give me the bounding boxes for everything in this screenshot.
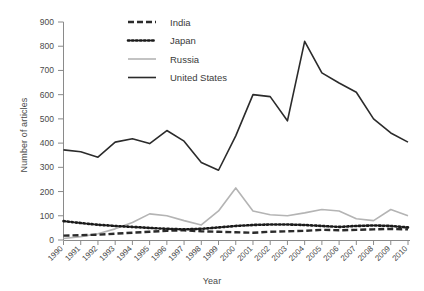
y-tick-label: 500	[40, 114, 54, 124]
y-tick-label: 700	[40, 65, 54, 75]
x-tick-label: 1992	[80, 244, 99, 263]
x-tick-label: 1999	[201, 244, 220, 263]
legend-label-india: India	[170, 17, 191, 28]
plot-area: 0100200300400500600700800900 19901991199…	[0, 0, 424, 291]
series-line-united-states	[64, 41, 409, 170]
y-tick-label: 200	[40, 187, 54, 197]
x-tick-label: 2000	[218, 244, 237, 263]
legend-label-russia: Russia	[170, 54, 200, 65]
x-tick-label: 2006	[322, 244, 341, 263]
series-line-india	[64, 229, 409, 236]
x-tick-label: 1995	[132, 244, 151, 263]
y-tick-label: 800	[40, 41, 54, 51]
line-chart: 0100200300400500600700800900 19901991199…	[0, 0, 424, 291]
x-tick-label: 1990	[46, 244, 65, 263]
x-tick-label: 1994	[115, 244, 134, 263]
y-tick-label: 900	[40, 17, 54, 27]
y-axis-ticks: 0100200300400500600700800900	[40, 17, 64, 245]
y-axis-title: Number of articles	[19, 65, 29, 205]
data-series-group	[64, 41, 409, 238]
x-tick-label: 1998	[184, 244, 203, 263]
chart-legend: IndiaJapanRussiaUnited States	[128, 17, 227, 84]
x-tick-label: 2001	[235, 244, 254, 263]
x-tick-label: 2002	[253, 244, 272, 263]
x-tick-label: 1991	[63, 244, 82, 263]
x-tick-label: 2003	[270, 244, 289, 263]
x-tick-label: 1997	[167, 244, 186, 263]
x-tick-label: 2009	[373, 244, 392, 263]
y-tick-label: 100	[40, 211, 54, 221]
x-axis-ticks: 1990199119921993199419951996199719981999…	[46, 241, 410, 263]
x-tick-label: 2007	[339, 244, 358, 263]
x-axis-title: Year	[0, 276, 424, 286]
x-tick-label: 1993	[98, 244, 117, 263]
x-tick-label: 2004	[287, 244, 306, 263]
legend-label-japan: Japan	[170, 35, 196, 46]
y-tick-label: 400	[40, 138, 54, 148]
legend-label-united-states: United States	[170, 72, 227, 83]
y-tick-label: 300	[40, 162, 54, 172]
x-tick-label: 2010	[390, 244, 409, 263]
y-tick-label: 0	[49, 235, 54, 245]
x-tick-label: 2005	[304, 244, 323, 263]
x-tick-label: 1996	[149, 244, 168, 263]
y-tick-label: 600	[40, 90, 54, 100]
x-tick-label: 2008	[356, 244, 375, 263]
